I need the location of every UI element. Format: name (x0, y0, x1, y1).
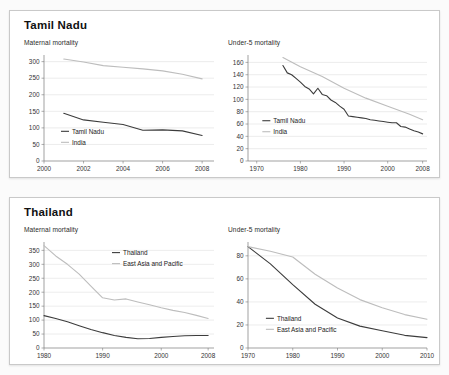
series-line-secondary (248, 247, 427, 320)
y-tick-label: 140 (233, 71, 244, 78)
chart-tamil-maternal-mortality: Maternal mortality 050100150200250300200… (18, 39, 224, 177)
y-tick-label: 150 (29, 108, 40, 115)
chart-plot: 05010015020025030020002002200420062008Ta… (18, 49, 224, 177)
x-tick-label: 1990 (337, 165, 352, 172)
x-tick-label: 2002 (76, 165, 91, 172)
chart-caption: Maternal mortality (24, 226, 78, 233)
chart-canvas: 02040608019701980199020002010ThailandEas… (222, 236, 437, 368)
x-tick-label: 1990 (96, 352, 111, 359)
y-tick-label: 20 (236, 321, 244, 328)
panel-title: Tamil Nadu (24, 19, 87, 31)
x-tick-label: 1980 (293, 165, 308, 172)
chart-caption: Maternal mortality (24, 39, 78, 46)
x-tick-label: 1970 (241, 352, 256, 359)
x-tick-label: 2008 (195, 165, 210, 172)
y-tick-label: 50 (32, 141, 40, 148)
y-tick-label: 200 (29, 91, 40, 98)
y-tick-label: 50 (32, 330, 40, 337)
y-tick-label: 80 (236, 108, 244, 115)
y-tick-label: 300 (29, 58, 40, 65)
y-tick-label: 40 (236, 298, 244, 305)
legend-label: Thailand (123, 249, 148, 256)
chart-caption: Under-5 mortality (228, 226, 280, 233)
y-tick-label: 120 (233, 83, 244, 90)
x-tick-label: 2008 (416, 165, 431, 172)
y-tick-label: 300 (29, 261, 40, 268)
legend-label: Tamil Nadu (273, 117, 305, 124)
chart-canvas: 05010015020025030020002002200420062008Ta… (18, 49, 224, 181)
chart-tamil-under5-mortality: Under-5 mortality 0204060801001201401601… (222, 39, 437, 177)
figure-page: Tamil Nadu Maternal mortality 0501001502… (0, 0, 449, 375)
y-tick-label: 150 (29, 302, 40, 309)
chart-canvas: 0204060801001201401601970198019902000200… (222, 49, 437, 181)
x-tick-label: 2008 (201, 352, 216, 359)
x-tick-label: 2000 (375, 352, 390, 359)
chart-thailand-under5-mortality: Under-5 mortality 0204060801970198019902… (222, 226, 437, 364)
y-tick-label: 250 (29, 74, 40, 81)
x-tick-label: 1970 (250, 165, 265, 172)
y-tick-label: 0 (240, 344, 244, 351)
y-tick-label: 60 (236, 120, 244, 127)
legend-label: India (273, 128, 287, 135)
series-line-primary (248, 247, 427, 338)
legend-label: Tamil Nadu (72, 128, 104, 135)
chart-caption: Under-5 mortality (228, 39, 280, 46)
legend-label: Thailand (277, 315, 302, 322)
y-tick-label: 0 (36, 157, 40, 164)
legend-label: East Asia and Pacific (123, 260, 183, 267)
x-tick-label: 2006 (155, 165, 170, 172)
y-tick-label: 100 (29, 124, 40, 131)
legend-label: East Asia and Pacific (277, 326, 337, 333)
x-tick-label: 2010 (420, 352, 435, 359)
y-tick-label: 0 (240, 157, 244, 164)
x-tick-label: 2000 (154, 352, 169, 359)
chart-plot: 02040608019701980199020002010ThailandEas… (222, 236, 437, 364)
charts-row: Maternal mortality 050100150200250300200… (10, 39, 439, 177)
chart-canvas: 0501001502002503003501980199020002008Tha… (18, 236, 224, 368)
charts-row: Maternal mortality 050100150200250300350… (10, 226, 439, 364)
y-tick-label: 350 (29, 247, 40, 254)
panel-title: Thailand (24, 206, 73, 218)
x-tick-label: 1980 (286, 352, 301, 359)
y-tick-label: 250 (29, 275, 40, 282)
panel-tamil-nadu: Tamil Nadu Maternal mortality 0501001502… (9, 10, 440, 178)
chart-plot: 0204060801001201401601970198019902000200… (222, 49, 437, 177)
y-tick-label: 80 (236, 252, 244, 259)
x-tick-label: 2000 (381, 165, 396, 172)
chart-thailand-maternal-mortality: Maternal mortality 050100150200250300350… (18, 226, 224, 364)
y-tick-label: 60 (236, 275, 244, 282)
y-tick-label: 0 (36, 344, 40, 351)
legend-label: India (72, 139, 86, 146)
chart-plot: 0501001502002503003501980199020002008Tha… (18, 236, 224, 364)
y-tick-label: 20 (236, 145, 244, 152)
series-line-secondary (283, 57, 423, 119)
y-tick-label: 100 (29, 316, 40, 323)
x-tick-label: 1990 (330, 352, 345, 359)
x-tick-label: 2004 (116, 165, 131, 172)
x-tick-label: 1980 (37, 352, 52, 359)
y-tick-label: 160 (233, 59, 244, 66)
x-tick-label: 2000 (37, 165, 52, 172)
series-line-secondary (44, 246, 208, 319)
y-tick-label: 200 (29, 289, 40, 296)
series-line-secondary (64, 59, 202, 79)
y-tick-label: 100 (233, 96, 244, 103)
y-tick-label: 40 (236, 133, 244, 140)
panel-thailand: Thailand Maternal mortality 050100150200… (9, 197, 440, 365)
series-line-primary (44, 316, 208, 339)
